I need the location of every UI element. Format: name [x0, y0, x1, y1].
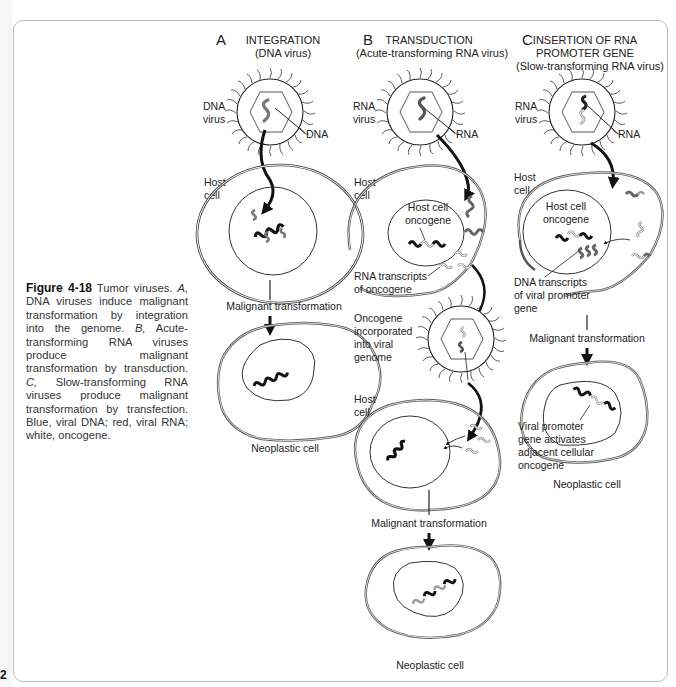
panel-c: C INSERTION OF RNA PROMOTER GENE (Slow-t…	[514, 31, 664, 490]
dna-transcripts-label-3: gene	[514, 302, 538, 314]
oncogene-incorporated-label-2: incorporated	[354, 325, 413, 337]
malignant-transformation-label: Malignant transformation	[226, 300, 342, 312]
host-cell-label: Host	[514, 171, 536, 183]
viral-promoter-label-2: gene activates	[518, 433, 586, 445]
rna-virus-label-2: virus	[515, 113, 537, 125]
rna-virus-icon	[375, 68, 465, 156]
rna-label: RNA	[456, 128, 478, 140]
rna-virus-label: RNA	[353, 100, 375, 112]
panel-c-letter: C	[522, 31, 533, 48]
panel-b-title: TRANSDUCTION	[385, 34, 472, 46]
recombinant-virus-icon	[416, 295, 506, 383]
panel-b-subtitle: (Acute-transforming RNA virus)	[356, 47, 508, 59]
panel-c-subtitle: (Slow-transforming RNA virus)	[516, 60, 664, 72]
neoplastic-nucleus	[242, 339, 315, 401]
host-cell-label: Host	[354, 176, 376, 188]
dna-transcripts-label: DNA transcripts	[514, 276, 587, 288]
dna-virus-icon	[225, 68, 315, 156]
neoplastic-nucleus	[393, 561, 463, 616]
rna-transcripts-label: RNA transcripts	[354, 270, 427, 282]
malignant-transformation-label: Malignant transformation	[529, 332, 645, 344]
host-cell-membrane-2	[355, 400, 500, 510]
oncogene-label: Host cell	[408, 201, 448, 213]
dna-virus-label-2: virus	[203, 113, 225, 125]
neoplastic-cell-membrane	[366, 545, 501, 638]
dna-virus-label: DNA	[203, 100, 225, 112]
panel-b-letter: B	[363, 31, 373, 48]
nucleus-2	[370, 416, 450, 488]
rna-virus-label-2: virus	[353, 113, 375, 125]
oncogene-incorporated-label-4: genome	[354, 351, 392, 363]
dna-transcripts-label-2: of viral promoter	[514, 289, 590, 301]
oncogene-label-2: oncogene	[405, 214, 451, 226]
host-cell-label: Host	[204, 176, 226, 188]
host-cell-membrane	[197, 165, 363, 303]
host-cell-label-2: cell	[514, 184, 530, 196]
panel-c-title-2: PROMOTER GENE	[536, 47, 634, 59]
tumor-virus-diagram: A INTEGRATION (DNA virus) DNA virus DNA …	[0, 0, 676, 687]
panel-c-title: INSERTION OF RNA	[533, 34, 638, 46]
oncogene-incorporated-label: Oncogene	[354, 312, 403, 324]
panel-b: B TRANSDUCTION (Acute-transforming RNA v…	[349, 31, 509, 671]
neoplastic-cell-label: Neoplastic cell	[553, 478, 621, 490]
dna-label: DNA	[306, 128, 328, 140]
viral-promoter-label: Viral promoter	[518, 420, 584, 432]
rna-label: RNA	[618, 128, 640, 140]
panel-a-subtitle: (DNA virus)	[255, 47, 311, 59]
malignant-transformation-label: Malignant transformation	[371, 517, 487, 529]
panel-a-title: INTEGRATION	[246, 34, 320, 46]
oncogene-label-2: oncogene	[543, 213, 589, 225]
rna-transcripts-label-2: of oncogene	[354, 283, 412, 295]
oncogene-label: Host cell	[546, 200, 586, 212]
panel-a-letter: A	[216, 31, 226, 48]
neoplastic-cell-label: Neoplastic cell	[396, 659, 464, 671]
rna-virus-label: RNA	[515, 100, 537, 112]
viral-promoter-label-4: oncogene	[518, 459, 564, 471]
neoplastic-cell-label: Neoplastic cell	[251, 442, 319, 454]
viral-promoter-label-3: adjacent cellular	[518, 446, 594, 458]
host-cell-label: Host	[354, 393, 376, 405]
oncogene-incorporated-label-3: into viral	[354, 338, 393, 350]
panel-a: A INTEGRATION (DNA virus) DNA virus DNA …	[197, 31, 380, 454]
